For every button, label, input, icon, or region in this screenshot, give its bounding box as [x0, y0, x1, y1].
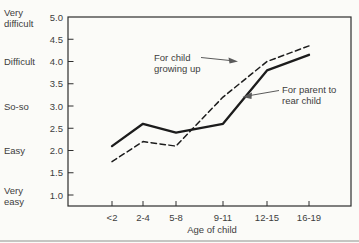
scanned-figure: 5.04.54.03.53.02.52.01.51.0Verydifficult…	[0, 0, 359, 243]
x-tick-label: <2	[107, 212, 118, 223]
annotation-parent-line2: rear child	[282, 95, 321, 106]
y-category-label: So-so	[4, 101, 29, 112]
y-tick-label: 4.0	[50, 56, 63, 67]
annotation-child-growing-up: For child growing up	[154, 52, 238, 74]
annotation-parent-arrow-line	[250, 91, 279, 96]
y-category-label: Very	[4, 7, 23, 18]
y-tick-label: 2.5	[50, 123, 63, 134]
y-tick-label: 1.0	[50, 190, 63, 201]
series-line-for-child-growing-up	[112, 46, 309, 162]
series-line-for-parent-to-rear-child	[112, 55, 309, 146]
annotation-child-line1: For child	[154, 52, 190, 63]
x-tick-label: 9-11	[214, 212, 232, 223]
y-category-label: Easy	[4, 145, 25, 156]
y-category-label: easy	[4, 196, 24, 207]
y-tick-label: 2.0	[50, 145, 63, 156]
x-tick-label: 12-15	[255, 212, 279, 223]
y-tick-label: 3.5	[50, 78, 63, 89]
annotation-child-arrow-line	[201, 58, 230, 61]
y-category-label: Difficult	[4, 56, 35, 67]
chart-generated-layer: 5.04.54.03.53.02.52.01.51.0Verydifficult…	[4, 7, 351, 223]
x-tick-label: 5-8	[169, 212, 183, 223]
y-tick-label: 5.0	[50, 12, 63, 23]
annotation-parent-rear-child: For parent to rear child	[243, 84, 337, 106]
y-tick-label: 3.0	[50, 101, 63, 112]
x-axis-title: Age of child	[187, 224, 237, 235]
y-tick-label: 4.5	[50, 34, 63, 45]
x-tick-label: 2-4	[136, 212, 150, 223]
y-category-label: difficult	[4, 18, 34, 29]
annotation-child-line2: growing up	[154, 63, 200, 74]
y-tick-label: 1.5	[50, 167, 63, 178]
x-tick-label: 16-19	[297, 212, 321, 223]
annotation-child-arrowhead-icon	[229, 58, 239, 64]
annotation-parent-line1: For parent to	[282, 84, 336, 95]
y-category-label: Very	[4, 185, 23, 196]
difficulty-by-age-line-chart: 5.04.54.03.53.02.52.01.51.0Verydifficult…	[0, 0, 359, 243]
